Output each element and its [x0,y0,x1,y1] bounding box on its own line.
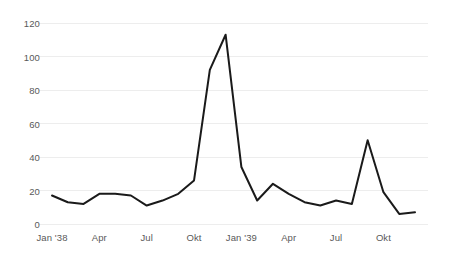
x-axis-tick-label: Jan '38 [36,232,67,243]
y-axis-tick-label: 60 [8,118,40,129]
chart-plot-area [0,0,449,262]
x-axis-tick-label: Jan '39 [226,232,257,243]
x-axis-tick-label: Jul [330,232,342,243]
y-axis-tick-label: 120 [8,18,40,29]
y-axis-tick-label: 80 [8,85,40,96]
x-axis-tick-label: Jul [140,232,152,243]
y-axis-tick-label: 40 [8,152,40,163]
x-axis-tick-label: Apr [281,232,296,243]
y-axis-tick-label: 0 [8,219,40,230]
data-series-line [52,35,415,214]
y-axis-tick-label: 20 [8,185,40,196]
x-axis-tick-label: Okt [376,232,391,243]
line-chart: 020406080100120 Jan '38AprJulOktJan '39A… [0,0,449,262]
x-axis-tick-label: Apr [92,232,107,243]
x-axis-tick-label: Okt [186,232,201,243]
gridlines-group [38,23,428,224]
y-axis-tick-label: 100 [8,51,40,62]
